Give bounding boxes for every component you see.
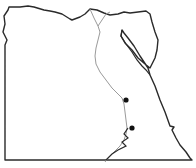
egypt-map: Egypt outline map xyxy=(0,0,196,168)
gulf-of-suez-line xyxy=(121,30,150,75)
egypt-border xyxy=(3,6,192,160)
lake-nasser xyxy=(106,128,128,160)
map-canvas xyxy=(0,0,196,168)
marker-1-icon xyxy=(123,97,128,102)
marker-2-icon xyxy=(129,125,134,130)
